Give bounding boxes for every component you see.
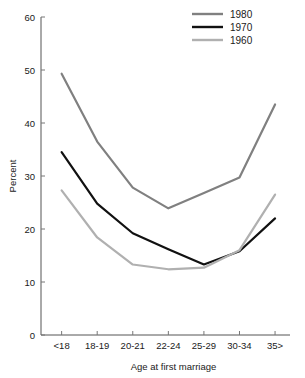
line-chart: 0102030405060 <1818-1920-2122-2425-2930-… bbox=[0, 0, 305, 378]
y-tick-label: 20 bbox=[24, 224, 35, 235]
y-tick-label: 10 bbox=[24, 277, 35, 288]
x-axis-title: Age at first marriage bbox=[131, 361, 217, 372]
x-tick-label: 18-19 bbox=[85, 340, 109, 351]
series-line-1960 bbox=[62, 190, 275, 269]
x-tick-label: 20-21 bbox=[121, 340, 145, 351]
x-tick-label: 30-34 bbox=[227, 340, 251, 351]
series-line-1980 bbox=[62, 74, 275, 209]
x-tick-label: 25-29 bbox=[192, 340, 216, 351]
y-axis-title: Percent bbox=[7, 159, 18, 192]
legend-label-1960: 1960 bbox=[230, 35, 253, 46]
x-tick-label: <18 bbox=[54, 340, 70, 351]
chart-legend: 198019701960 bbox=[192, 9, 253, 46]
y-tick-label: 50 bbox=[24, 65, 35, 76]
x-tick-label: 22-24 bbox=[156, 340, 180, 351]
legend-label-1970: 1970 bbox=[230, 22, 253, 33]
chart-canvas: 0102030405060 <1818-1920-2122-2425-2930-… bbox=[0, 0, 305, 378]
y-tick-label: 60 bbox=[24, 12, 35, 23]
y-axis-tick-labels: 0102030405060 bbox=[24, 12, 35, 341]
y-tick-label: 30 bbox=[24, 171, 35, 182]
x-tick-label: 35> bbox=[267, 340, 284, 351]
legend-label-1980: 1980 bbox=[230, 9, 253, 20]
x-axis-tick-labels: <1818-1920-2122-2425-2930-3435> bbox=[54, 340, 284, 351]
data-series bbox=[62, 74, 275, 270]
y-tick-label: 0 bbox=[30, 330, 35, 341]
y-tick-label: 40 bbox=[24, 118, 35, 129]
